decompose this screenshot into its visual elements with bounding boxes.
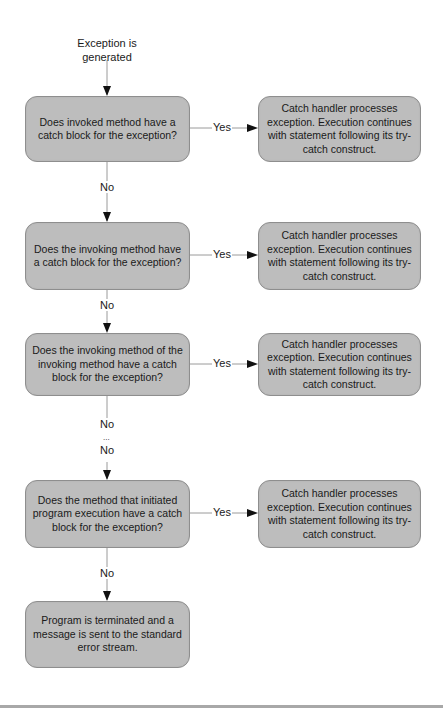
edge-label-no-1: No: [99, 181, 115, 193]
edge-label-no-3: No: [99, 418, 115, 430]
start-node: Exception is generated: [67, 36, 147, 64]
terminal-box: Program is terminated and a message is s…: [25, 601, 190, 668]
edge-label-yes-2: Yes: [212, 248, 232, 260]
decision-text-3: Does the invoking method of the invoking…: [32, 344, 183, 385]
decision-box-2: Does the invoking method have a catch bl…: [25, 222, 190, 290]
decision-text-4: Does the method that initiated program e…: [32, 494, 183, 535]
edge-label-no-5: No: [99, 567, 115, 579]
edge-label-yes-1: Yes: [212, 121, 232, 133]
terminal-text: Program is terminated and a message is s…: [32, 614, 183, 655]
decision-text-2: Does the invoking method have a catch bl…: [32, 243, 183, 270]
action-box-3: Catch handler processes exception. Execu…: [258, 333, 421, 396]
action-text-2: Catch handler processes exception. Execu…: [265, 229, 414, 283]
decision-box-1: Does invoked method have a catch block f…: [25, 96, 190, 162]
action-box-2: Catch handler processes exception. Execu…: [258, 222, 421, 290]
edge-label-ellipsis: ...: [102, 434, 111, 442]
decision-box-3: Does the invoking method of the invoking…: [25, 333, 190, 396]
action-text-4: Catch handler processes exception. Execu…: [265, 487, 414, 541]
edge-label-no-2: No: [99, 299, 115, 311]
edge-label-no-4: No: [99, 444, 115, 456]
action-box-1: Catch handler processes exception. Execu…: [258, 96, 421, 162]
edge-label-yes-4: Yes: [212, 506, 232, 518]
action-text-1: Catch handler processes exception. Execu…: [265, 102, 414, 156]
action-text-3: Catch handler processes exception. Execu…: [265, 338, 414, 392]
decision-text-1: Does invoked method have a catch block f…: [32, 116, 183, 143]
decision-box-4: Does the method that initiated program e…: [25, 480, 190, 548]
action-box-4: Catch handler processes exception. Execu…: [258, 480, 421, 548]
edge-label-yes-3: Yes: [212, 357, 232, 369]
